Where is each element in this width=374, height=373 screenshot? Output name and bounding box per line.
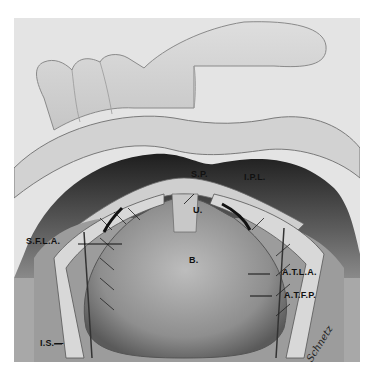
label-ipl: I.P.L. [244,173,266,182]
label-symphysis-pubis: S.P. [191,170,208,179]
label-urethra: U. [193,206,202,215]
label-atla: A.T.L.A. [282,268,317,277]
label-ischial-spine: I.S.— [40,339,64,348]
illustration-drawing [14,18,360,362]
label-bladder: B. [189,256,198,265]
anatomical-illustration: S.P. I.P.L. U. B. S.F.L.A. A.T.L.A. A.T.… [14,18,360,362]
label-sfla: S.F.L.A. [26,237,60,246]
label-atfp: A.T.F.P. [284,291,316,300]
